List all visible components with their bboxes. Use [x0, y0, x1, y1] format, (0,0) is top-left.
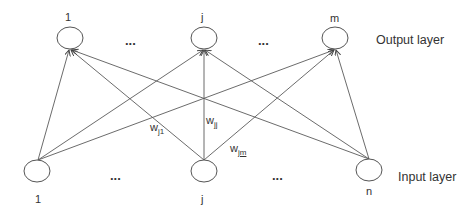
weight-base: w: [206, 114, 214, 126]
edge-in-o1: [72, 50, 369, 159]
edge-i1-oj: [38, 50, 203, 160]
weight-subscript: jm: [238, 148, 246, 157]
input-ellipsis-left: ...: [110, 168, 121, 183]
weight-base: w: [230, 142, 238, 154]
input-node-j-label: j: [201, 194, 203, 205]
output-node-j-label: j: [201, 12, 203, 23]
edge-i1-om: [38, 50, 334, 160]
edge-in-om: [336, 50, 369, 159]
output-node-j: [191, 27, 217, 49]
output-node-1: [57, 27, 83, 49]
input-node-n-label: n: [366, 186, 372, 197]
output-nodes: [57, 27, 348, 49]
weight-base: w: [150, 121, 158, 133]
weight-label-wjm: wjm: [230, 142, 246, 157]
output-ellipsis-right: ...: [258, 33, 269, 48]
input-nodes: [24, 159, 382, 182]
input-ellipsis-right: ...: [272, 168, 283, 183]
input-node-j: [191, 160, 217, 182]
weight-subscript: j1: [158, 127, 164, 136]
input-node-n: [356, 159, 382, 181]
output-node-1-label: 1: [65, 12, 71, 23]
output-ellipsis-left: ...: [125, 33, 136, 48]
output-node-m-label: m: [330, 13, 339, 24]
output-layer-label: Output layer: [376, 33, 444, 47]
weight-label-wj1: wj1: [150, 121, 164, 136]
output-node-m: [322, 27, 348, 49]
weight-subscript: jj: [214, 120, 218, 129]
edge-ij-om: [204, 50, 334, 160]
input-layer-label: Input layer: [398, 170, 456, 184]
input-node-1-label: 1: [35, 194, 41, 205]
edges: [38, 50, 369, 160]
input-node-1: [24, 160, 50, 182]
edge-i1-o1: [38, 50, 69, 160]
weight-label-wjj: wjj: [206, 114, 218, 129]
edge-ij-o1: [71, 50, 204, 160]
